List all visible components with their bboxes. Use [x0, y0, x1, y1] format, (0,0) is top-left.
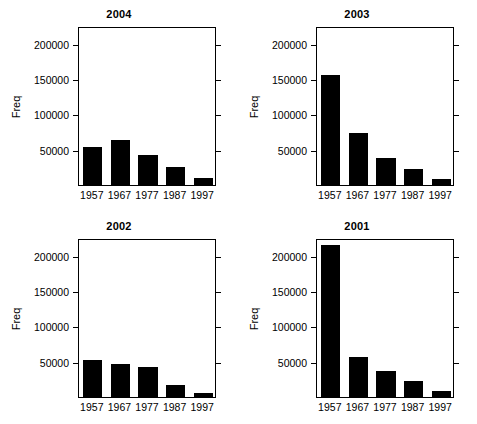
y-tick-label: 200000 — [272, 40, 307, 50]
bar — [194, 178, 213, 185]
y-tick-label: 50000 — [40, 146, 69, 156]
y-tick-mark — [454, 45, 459, 46]
chart-panel-2002: 2002Freq50000100000150000200000195719671… — [0, 212, 238, 424]
y-axis-label: Freq — [10, 52, 24, 162]
y-tick-label: 150000 — [34, 287, 69, 297]
y-tick-mark — [311, 80, 316, 81]
panel-title: 2002 — [0, 220, 238, 232]
plot-area — [316, 239, 454, 398]
y-tick-mark — [73, 80, 78, 81]
y-tick-mark — [73, 327, 78, 328]
bar — [166, 167, 185, 185]
y-tick-label: 50000 — [278, 146, 307, 156]
bar — [321, 75, 340, 185]
y-tick-label: 50000 — [278, 358, 307, 368]
bar — [376, 371, 395, 397]
bar — [321, 245, 340, 397]
y-tick-mark — [454, 151, 459, 152]
y-tick-mark — [73, 363, 78, 364]
bar — [432, 391, 451, 397]
y-tick-mark — [454, 292, 459, 293]
y-tick-mark — [311, 257, 316, 258]
plot-area — [78, 27, 216, 186]
y-tick-mark — [216, 115, 221, 116]
x-tick-label: 1997 — [423, 190, 457, 201]
y-tick-label: 100000 — [34, 110, 69, 120]
y-tick-label: 150000 — [34, 75, 69, 85]
plot-area — [316, 27, 454, 186]
y-tick-mark — [454, 363, 459, 364]
chart-panel-2001: 2001Freq50000100000150000200000195719671… — [238, 212, 476, 424]
y-tick-label: 200000 — [34, 40, 69, 50]
y-axis-label: Freq — [248, 264, 262, 374]
y-tick-mark — [73, 257, 78, 258]
x-tick-label: 1997 — [185, 190, 219, 201]
y-tick-mark — [311, 115, 316, 116]
y-axis-label: Freq — [10, 264, 24, 374]
y-tick-mark — [216, 327, 221, 328]
y-tick-mark — [454, 257, 459, 258]
bar — [432, 179, 451, 185]
bar — [166, 385, 185, 397]
bar — [138, 367, 157, 397]
y-tick-mark — [73, 45, 78, 46]
y-tick-mark — [216, 257, 221, 258]
y-tick-mark — [311, 327, 316, 328]
bar — [83, 147, 102, 185]
bar — [138, 155, 157, 185]
y-tick-mark — [311, 151, 316, 152]
y-tick-mark — [73, 292, 78, 293]
y-tick-label: 50000 — [40, 358, 69, 368]
bar — [349, 133, 368, 185]
y-tick-mark — [216, 80, 221, 81]
bar — [376, 158, 395, 185]
y-tick-mark — [454, 80, 459, 81]
y-tick-mark — [454, 115, 459, 116]
y-tick-mark — [216, 45, 221, 46]
plot-area — [78, 239, 216, 398]
y-tick-mark — [216, 363, 221, 364]
x-tick-label: 1997 — [185, 402, 219, 413]
bar — [404, 381, 423, 397]
figure-canvas: 2004Freq50000100000150000200000195719671… — [0, 0, 477, 424]
y-tick-label: 150000 — [272, 287, 307, 297]
y-tick-label: 200000 — [34, 252, 69, 262]
bar — [111, 140, 130, 185]
chart-panel-2003: 2003Freq50000100000150000200000195719671… — [238, 0, 476, 212]
y-tick-mark — [454, 327, 459, 328]
panel-title: 2001 — [238, 220, 476, 232]
y-tick-label: 100000 — [272, 322, 307, 332]
bar — [83, 360, 102, 397]
bar — [111, 364, 130, 397]
y-axis-label: Freq — [248, 52, 262, 162]
y-tick-label: 150000 — [272, 75, 307, 85]
y-tick-mark — [73, 151, 78, 152]
y-tick-mark — [311, 363, 316, 364]
y-tick-mark — [73, 115, 78, 116]
panel-title: 2004 — [0, 8, 238, 20]
panel-title: 2003 — [238, 8, 476, 20]
x-tick-label: 1997 — [423, 402, 457, 413]
y-tick-label: 200000 — [272, 252, 307, 262]
y-tick-mark — [216, 151, 221, 152]
y-tick-label: 100000 — [272, 110, 307, 120]
bar — [194, 393, 213, 397]
chart-panel-2004: 2004Freq50000100000150000200000195719671… — [0, 0, 238, 212]
y-tick-mark — [216, 292, 221, 293]
y-tick-mark — [311, 292, 316, 293]
bar — [349, 357, 368, 397]
y-tick-label: 100000 — [34, 322, 69, 332]
y-tick-mark — [311, 45, 316, 46]
bar — [404, 169, 423, 185]
